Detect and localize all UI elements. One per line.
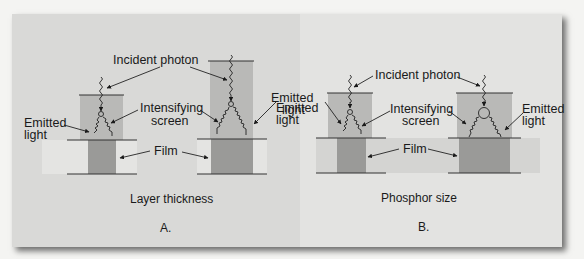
- panel-b: Incident photon Intensifying screen Emit…: [271, 68, 564, 234]
- film-exposed-area: [459, 138, 510, 173]
- panel-a-caption: Layer thickness: [130, 192, 213, 206]
- panel-a-letter: A.: [160, 221, 171, 235]
- panel-b-caption: Phosphor size: [381, 191, 457, 205]
- incident-photon-label: Incident photon: [113, 53, 199, 67]
- intensifying-screen-label-line1: Intensifying: [140, 101, 203, 115]
- emitted-light-left-label-line2: light: [24, 128, 47, 142]
- panel-a: Incident photon Intensifying screen Emit…: [24, 53, 318, 235]
- panel-b-letter: B.: [418, 220, 429, 234]
- intensifying-screen-label-line2: screen: [151, 114, 189, 128]
- xray-screen-diagram: Incident photon Intensifying screen Emit…: [0, 0, 584, 259]
- film-exposed-area: [211, 139, 253, 174]
- incident-photon-label: Incident photon: [375, 68, 461, 82]
- intensifying-screen-layer: [210, 61, 253, 139]
- film-label: Film: [154, 144, 178, 158]
- film-exposed-area: [337, 138, 366, 173]
- intensifying-screen-label-line2: screen: [402, 114, 440, 128]
- emitted-light-left-label-line2: light: [282, 103, 305, 117]
- film-label: Film: [403, 142, 427, 156]
- emitted-light-right-label-line2: light: [522, 114, 545, 128]
- film-exposed-area: [88, 140, 116, 174]
